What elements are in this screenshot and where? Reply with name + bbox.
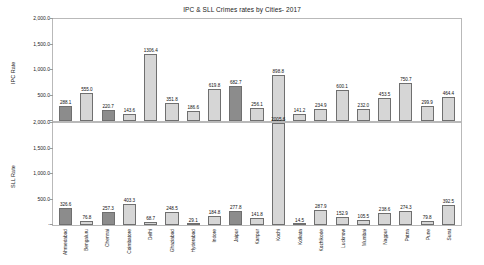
bar-group: 232.0: [353, 19, 374, 121]
y-tick-label: 1,500.0: [20, 41, 50, 47]
bar[interactable]: [102, 212, 115, 225]
bar[interactable]: [399, 211, 412, 225]
bar[interactable]: [229, 211, 242, 225]
bar[interactable]: [314, 109, 327, 121]
bar-group: 234.9: [310, 19, 331, 121]
y-tick-label: 500.0: [20, 196, 50, 202]
x-tick-label: Mumbai: [361, 229, 366, 246]
bar[interactable]: [208, 216, 221, 225]
bar[interactable]: [144, 54, 157, 121]
x-tick: Kozhikode: [311, 227, 332, 265]
bar-value-label: 105.5: [353, 214, 374, 219]
bar[interactable]: [357, 220, 370, 225]
x-tick-label: Indore: [212, 229, 217, 243]
bar[interactable]: [272, 123, 285, 225]
bar[interactable]: [421, 221, 434, 225]
bar-value-label: 453.5: [374, 92, 395, 97]
bar[interactable]: [208, 89, 221, 121]
x-axis-labels: AhmedabadBengaluruChennaiCoimbatoreDelhi…: [52, 227, 462, 265]
x-tick-label: Patna: [404, 229, 409, 242]
bar[interactable]: [336, 90, 349, 121]
bar[interactable]: [250, 218, 263, 225]
bar[interactable]: [165, 212, 178, 225]
ipc-plot-panel: -500.01,000.01,500.02,000.0288.1555.0220…: [52, 18, 462, 122]
x-tick-label: Kozhikode: [319, 229, 324, 251]
bar-group: 14.5: [289, 123, 310, 225]
bar-value-label: 898.8: [268, 69, 289, 74]
bar[interactable]: [421, 106, 434, 121]
bar-value-label: 351.8: [161, 97, 182, 102]
bar[interactable]: [293, 223, 306, 225]
bar-group: 152.9: [331, 123, 352, 225]
bar[interactable]: [293, 114, 306, 121]
bar[interactable]: [229, 86, 242, 121]
y-tick-label: 500.0: [20, 92, 50, 98]
bar-group: 105.5: [353, 123, 374, 225]
bar[interactable]: [336, 217, 349, 225]
bar-value-label: 76.8: [76, 215, 97, 220]
bar-group: 76.8: [76, 123, 97, 225]
bar[interactable]: [442, 97, 455, 121]
x-tick: Chennai: [97, 227, 118, 265]
x-tick: Indore: [204, 227, 225, 265]
bar-group: 184.8: [204, 123, 225, 225]
bar[interactable]: [144, 222, 157, 226]
x-tick: Kochi: [268, 227, 289, 265]
bar[interactable]: [378, 213, 391, 225]
bar-group: 141.8: [246, 123, 267, 225]
x-tick: Ahmedabad: [54, 227, 75, 265]
bar[interactable]: [80, 93, 93, 121]
bar[interactable]: [399, 83, 412, 121]
x-tick: Hyderabad: [182, 227, 203, 265]
bar-group: 277.8: [225, 123, 246, 225]
bar[interactable]: [442, 205, 455, 225]
x-tick: Patna: [396, 227, 417, 265]
x-tick-label: Coimbatore: [126, 229, 131, 254]
x-tick-label: Chennai: [105, 229, 110, 247]
chart-page: IPC & SLL Crimes rates by Cities- 2017 I…: [0, 0, 484, 265]
bar[interactable]: [165, 103, 178, 121]
bar[interactable]: [272, 75, 285, 121]
bar[interactable]: [187, 223, 200, 225]
x-tick-label: Ghaziabad: [169, 229, 174, 252]
bar-value-label: 152.9: [331, 211, 352, 216]
bar-group: 464.4: [438, 19, 459, 121]
y-tick-label: 1,500.0: [20, 145, 50, 151]
y-tick-label: 1,000.0: [20, 66, 50, 72]
y-tick-label: 1,000.0: [20, 170, 50, 176]
bar-group: 68.7: [140, 123, 161, 225]
bar-group: 29.1: [183, 123, 204, 225]
bar-value-label: 14.5: [289, 218, 310, 223]
bar[interactable]: [357, 109, 370, 121]
bar-group: 619.8: [204, 19, 225, 121]
x-tick: Nagpur: [375, 227, 396, 265]
bar-group: 257.3: [98, 123, 119, 225]
bar-value-label: 79.8: [417, 215, 438, 220]
bar-value-label: 403.3: [119, 198, 140, 203]
bar-group: 403.3: [119, 123, 140, 225]
ipc-plot-area: -500.01,000.01,500.02,000.0288.1555.0220…: [53, 19, 461, 121]
y-tick-label: 2,000.0: [20, 119, 50, 125]
bar[interactable]: [59, 208, 72, 225]
x-tick-label: Bengaluru: [84, 229, 89, 251]
bar[interactable]: [80, 221, 93, 225]
bar-value-label: 277.8: [225, 205, 246, 210]
x-tick: Ghaziabad: [161, 227, 182, 265]
x-tick: Pune: [417, 227, 438, 265]
bar[interactable]: [59, 106, 72, 121]
bar[interactable]: [378, 98, 391, 121]
x-tick: Kanpur: [246, 227, 267, 265]
bar[interactable]: [102, 110, 115, 121]
x-tick-label: Kanpur: [255, 229, 260, 244]
bar-group: 453.5: [374, 19, 395, 121]
bar-value-label: 288.1: [55, 100, 76, 105]
bar-value-label: 287.9: [310, 204, 331, 209]
bar[interactable]: [250, 108, 263, 121]
bar[interactable]: [123, 114, 136, 121]
bar[interactable]: [123, 204, 136, 225]
bar[interactable]: [187, 111, 200, 121]
bar-value-label: 68.7: [140, 216, 161, 221]
bar-series-sll: 326.676.8257.3403.368.7248.529.1184.8277…: [53, 123, 461, 225]
bar[interactable]: [314, 210, 327, 225]
bar-group: 256.1: [246, 19, 267, 121]
